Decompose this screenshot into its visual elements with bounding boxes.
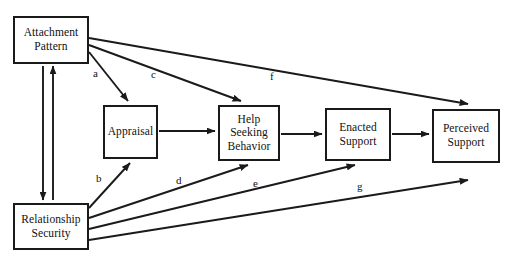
node-perceived-support[interactable]: Perceived Support [432,109,500,163]
node-label-appraisal: Appraisal [106,125,156,139]
node-help-seeking-behavior[interactable]: Help Seeking Behavior [218,105,280,161]
path-label-b: b [96,173,102,184]
node-label-enacted-support: Enacted Support [337,121,379,148]
path-diagram: Attachment PatternRelationship SecurityA… [0,0,511,263]
path-label-d: d [176,175,182,186]
edge-attachment-to-help-seeking [89,45,241,101]
path-label-e: e [253,178,258,189]
node-label-help-seeking-behavior: Help Seeking Behavior [226,113,273,154]
path-label-a: a [93,68,98,79]
node-label-attachment-pattern: Attachment Pattern [22,26,81,53]
edge-security-to-perceived-support [89,180,468,240]
edge-security-to-appraisal [89,163,130,208]
node-label-perceived-support: Perceived Support [441,122,491,149]
node-relationship-security[interactable]: Relationship Security [13,203,89,250]
node-attachment-pattern[interactable]: Attachment Pattern [13,16,89,64]
node-enacted-support[interactable]: Enacted Support [325,108,391,161]
node-appraisal[interactable]: Appraisal [103,105,158,159]
path-label-c: c [151,69,156,80]
path-label-f: f [270,71,274,82]
edge-attachment-to-perceived-support [89,38,468,104]
path-label-g: g [357,181,363,192]
node-label-relationship-security: Relationship Security [19,213,82,240]
